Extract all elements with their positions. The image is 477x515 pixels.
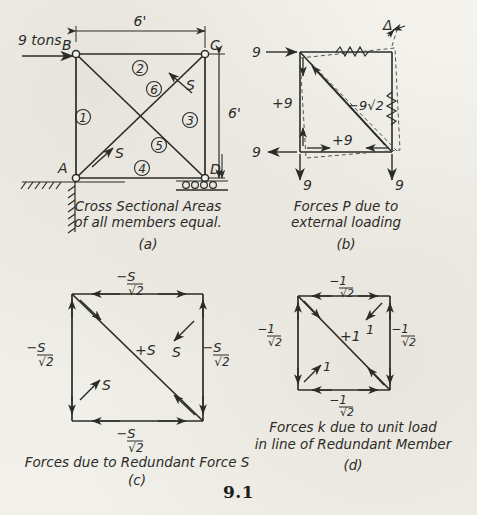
reaction-label-bottom-left: 9 — [252, 144, 261, 160]
svg-text:−1: −1 — [257, 322, 275, 336]
arrow-label-lower-c: S — [102, 377, 111, 393]
force-label-diagonal-b: −9√2 — [348, 98, 384, 113]
svg-text:−S: −S — [116, 426, 135, 441]
arrow-label-upper-d: 1 — [366, 322, 374, 337]
force-label-diagonal-c: +S — [135, 342, 156, 358]
figure-number: 9.1 — [0, 482, 477, 502]
force-label-bottom-d: −1 √2 — [329, 393, 354, 419]
panel-b-caption-line2: external loading — [291, 214, 401, 230]
joint-label-a: A — [57, 160, 68, 176]
svg-text:√2: √2 — [340, 287, 354, 300]
svg-text:−1: −1 — [329, 393, 347, 407]
dim-right-label: 6' — [228, 105, 241, 121]
svg-text:−1: −1 — [391, 322, 409, 336]
dimension-right: 6' — [206, 54, 241, 178]
joint-b — [72, 50, 79, 57]
member-number-4: 4 — [138, 162, 146, 176]
svg-text:−S: −S — [26, 340, 45, 355]
figure-canvas: 6' 6' B C A D — [0, 0, 477, 515]
force-label-right-c: −S √2 — [202, 340, 229, 369]
dim-top-label: 6' — [134, 13, 147, 29]
delta-label: Δ — [382, 17, 393, 33]
force-label-bottom-b: +9 — [332, 132, 353, 148]
panel-c-caption: Forces due to Redundant Force S — [25, 454, 250, 470]
reaction-arrows-b — [266, 52, 392, 180]
svg-text:√2: √2 — [268, 336, 282, 349]
svg-text:−1: −1 — [329, 274, 347, 288]
member-number-3: 3 — [186, 114, 194, 128]
joint-label-c: C — [210, 37, 220, 53]
member-number-5: 5 — [155, 139, 163, 153]
joint-label-b: B — [62, 37, 72, 53]
force-label-left-b: +9 — [272, 95, 293, 111]
force-label-right-d: −1 √2 — [391, 322, 416, 349]
svg-text:−S: −S — [202, 340, 221, 355]
reaction-label-bottom-right: 9 — [395, 177, 404, 193]
member-number-6: 6 — [150, 83, 158, 97]
panel-b-caption-line1: Forces P due to — [294, 198, 398, 214]
panel-a-caption-line2: of all members equal. — [74, 214, 221, 230]
member-number-1: 1 — [79, 111, 87, 125]
arrow-label-lower-d: 1 — [323, 359, 331, 374]
panel-d-label: (d) — [343, 457, 362, 473]
redundant-label-lower: S — [115, 145, 124, 161]
reaction-label-bottom-left-down: 9 — [303, 177, 312, 193]
svg-text:√2: √2 — [128, 441, 143, 455]
joint-a — [72, 174, 79, 181]
panel-c: S S −S √2 −S √2 −S √2 −S √2 +S Forces du… — [25, 269, 250, 488]
reaction-label-top-left: 9 — [252, 44, 261, 60]
svg-text:√2: √2 — [402, 336, 416, 349]
svg-text:−S: −S — [116, 269, 135, 284]
redundant-label-upper: S — [186, 77, 195, 93]
panel-a: 6' 6' B C A D — [18, 13, 241, 252]
joint-label-d: D — [210, 161, 221, 177]
dimension-top: 6' — [76, 13, 205, 48]
panel-a-caption-line1: Cross Sectional Areas — [75, 198, 221, 214]
panel-d-caption-line2: in line of Redundant Member — [255, 436, 453, 452]
applied-load-label: 9 tons — [18, 32, 62, 48]
force-label-left-c: −S √2 — [26, 340, 53, 369]
panel-d-caption-line1: Forces k due to unit load — [269, 419, 437, 435]
panel-b: 9 9 9 9 +9 +9 −9√2 Δ Forces P due to ext… — [252, 17, 405, 252]
delta-marker-b: Δ — [382, 17, 405, 36]
force-label-bottom-c: −S √2 — [116, 426, 143, 455]
svg-text:√2: √2 — [38, 355, 53, 369]
joint-c — [201, 50, 208, 57]
panel-a-label: (a) — [139, 236, 158, 252]
redundant-arrows-c — [80, 321, 194, 400]
svg-text:√2: √2 — [128, 284, 143, 298]
panel-b-label: (b) — [336, 236, 355, 252]
force-label-left-d: −1 √2 — [257, 322, 282, 349]
force-label-diagonal-d: +1 — [340, 328, 361, 344]
arrow-label-upper-c: S — [172, 344, 181, 360]
panel-d: 1 1 −1 √2 −1 √2 −1 √2 −1 √2 +1 Forces k … — [255, 274, 453, 473]
member-number-2: 2 — [136, 62, 144, 76]
svg-text:√2: √2 — [214, 355, 229, 369]
svg-text:√2: √2 — [340, 406, 354, 419]
